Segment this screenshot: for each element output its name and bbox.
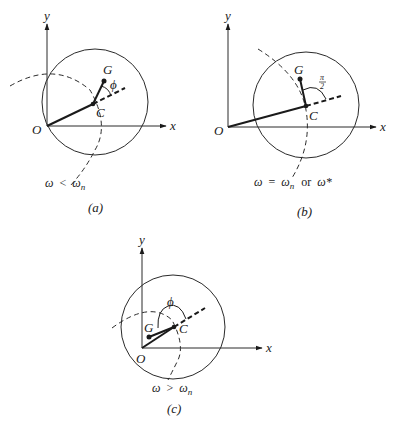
condition-label: ω = ωn or ω*: [254, 175, 332, 192]
condition-label: ω > ωn: [152, 381, 193, 397]
point-G: [102, 79, 107, 84]
label-pi: π: [320, 73, 325, 82]
radius-line-OC: [47, 104, 93, 126]
panel-caption: (b): [297, 204, 312, 219]
label-G: G: [294, 62, 304, 77]
rotor-whirl-diagram: y x G C ϕ O ω < ωn (a) y x G: [0, 0, 395, 424]
label-C: C: [179, 321, 188, 336]
point-C: [172, 325, 177, 330]
x-axis-label: x: [379, 119, 386, 134]
label-O: O: [214, 123, 224, 138]
label-two: 2: [320, 82, 324, 91]
eccentricity-line-CG: [93, 81, 104, 104]
y-axis-label: y: [42, 8, 50, 23]
label-G: G: [144, 320, 154, 335]
point-G: [298, 77, 303, 82]
label-O: O: [32, 122, 42, 137]
y-axis-label: y: [137, 232, 145, 247]
OC-extension: [306, 96, 341, 106]
panel-c: y x G C ϕ O ω > ωn (c): [112, 232, 272, 416]
label-phi: ϕ: [110, 77, 117, 92]
point-C: [91, 102, 96, 107]
panel-a: y x G C ϕ O ω < ωn (a): [10, 8, 176, 215]
panel-b: y x G C π 2 O ω = ωn or ω* (b): [214, 8, 386, 219]
label-O: O: [136, 351, 146, 366]
x-axis-label: x: [265, 340, 272, 355]
natural-frequency-arc: [10, 74, 101, 186]
label-G: G: [103, 62, 113, 77]
label-C: C: [96, 105, 105, 120]
label-phi: ϕ: [167, 294, 174, 309]
point-G: [147, 335, 152, 340]
label-C: C: [309, 108, 318, 123]
condition-label: ω < ωn: [45, 176, 86, 192]
y-axis-label: y: [223, 8, 231, 23]
radius-line-OC: [228, 106, 306, 127]
point-C: [304, 104, 309, 109]
x-axis-label: x: [169, 118, 176, 133]
panel-caption: (a): [88, 200, 103, 215]
panel-caption: (c): [167, 401, 181, 416]
